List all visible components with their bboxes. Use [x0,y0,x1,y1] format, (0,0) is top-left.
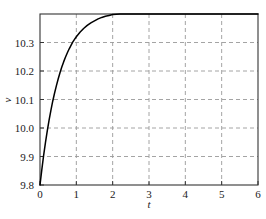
y-tick-label: 10.0 [15,122,35,134]
y-tick-label: 10.2 [15,65,34,77]
y-tick-label: 9.8 [20,179,34,191]
y-tick-label: 9.9 [20,151,34,163]
x-tick-label: 0 [37,188,43,200]
chart-figure: 0123456 9.89.910.010.110.210.3 t v [0,0,266,219]
x-tick-label: 5 [219,188,225,200]
x-tick-label: 2 [110,188,116,200]
x-tick-label: 4 [183,188,189,200]
x-tick-label: 1 [74,188,80,200]
y-tick-label: 10.1 [15,94,34,106]
y-tick-label: 10.3 [15,37,35,49]
plot-area: 0123456 9.89.910.010.110.210.3 t v [0,0,266,219]
x-tick-label: 6 [255,188,261,200]
y-axis-title: v [1,97,13,102]
